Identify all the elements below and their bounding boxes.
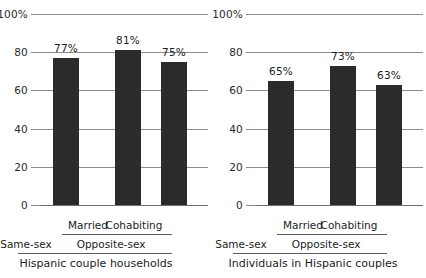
grouplabel-opposite-sex: Opposite-sex: [292, 238, 361, 250]
grouplabel-same-sex: Same-sex: [0, 238, 52, 250]
rule-opposite-sex-sub: [62, 234, 172, 235]
y-tick-label-80: 80: [14, 46, 28, 58]
bar-value-label: 75%: [162, 46, 186, 58]
y-tick-label-100: 100%: [0, 8, 28, 20]
chart-panel-right: 020406080100% 65%73%63% Married Cohabiti…: [213, 0, 426, 278]
sublabel-cohabiting: Cohabiting: [321, 219, 378, 231]
sublabel-married: Married: [283, 219, 323, 231]
category-labels-left: Married Cohabiting Same-sex Opposite-sex…: [0, 205, 213, 278]
bar-cohabiting: [161, 62, 187, 205]
rule-panel-left: [18, 253, 172, 254]
bar-value-label: 65%: [269, 65, 293, 77]
plot-area-right: 020406080100% 65%73%63%: [255, 14, 423, 205]
gridline-100: [40, 14, 208, 15]
y-tick-100: [246, 14, 255, 15]
bar-married: [115, 50, 141, 205]
bar-same-sex: [53, 58, 79, 205]
bar-value-label: 73%: [331, 50, 355, 62]
grouplabel-opposite-sex: Opposite-sex: [77, 238, 146, 250]
chart-panel-left: 020406080100% 77%81%75% Married Cohabiti…: [0, 0, 213, 278]
sublabel-married: Married: [68, 219, 108, 231]
bar-same-sex: [268, 81, 294, 205]
y-tick-80: [31, 52, 40, 53]
y-tick-label-100: 100%: [212, 8, 243, 20]
y-tick-40: [31, 129, 40, 130]
y-tick-20: [31, 167, 40, 168]
panel-caption-right: Individuals in Hispanic couples: [229, 257, 398, 270]
sublabel-cohabiting: Cohabiting: [106, 219, 163, 231]
y-tick-label-60: 60: [229, 84, 243, 96]
figure: 020406080100% 77%81%75% Married Cohabiti…: [0, 0, 426, 278]
bar-value-label: 77%: [54, 42, 78, 54]
gridline-100: [255, 14, 423, 15]
bar-value-label: 81%: [116, 34, 140, 46]
rule-opposite-sex-sub: [277, 234, 387, 235]
bar-married: [330, 66, 356, 205]
y-tick-label-60: 60: [14, 84, 28, 96]
y-tick-label-40: 40: [229, 123, 243, 135]
y-tick-60: [31, 90, 40, 91]
y-tick-40: [246, 129, 255, 130]
y-tick-80: [246, 52, 255, 53]
y-tick-label-40: 40: [14, 123, 28, 135]
y-tick-label-80: 80: [229, 46, 243, 58]
y-tick-100: [31, 14, 40, 15]
y-tick-label-20: 20: [229, 161, 243, 173]
y-tick-20: [246, 167, 255, 168]
panel-caption-left: Hispanic couple households: [19, 257, 172, 270]
rule-panel-right: [233, 253, 387, 254]
plot-area-left: 020406080100% 77%81%75%: [40, 14, 208, 205]
y-tick-label-20: 20: [14, 161, 28, 173]
y-tick-60: [246, 90, 255, 91]
bar-value-label: 63%: [377, 69, 401, 81]
bar-cohabiting: [376, 85, 402, 205]
grouplabel-same-sex: Same-sex: [215, 238, 267, 250]
category-labels-right: Married Cohabiting Same-sex Opposite-sex…: [213, 205, 426, 278]
